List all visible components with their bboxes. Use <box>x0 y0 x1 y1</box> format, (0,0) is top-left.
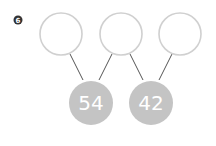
connectors <box>70 54 172 80</box>
bottom-row: 54 42 <box>69 81 173 125</box>
step-badge: 6 <box>14 16 23 25</box>
top-row <box>40 13 201 55</box>
connector-line <box>70 54 83 80</box>
sum-node-1-value: 54 <box>78 91 103 115</box>
connector-line <box>99 54 112 80</box>
empty-node-2[interactable] <box>100 13 142 55</box>
badge-label: 6 <box>16 17 21 25</box>
number-pyramid-diagram: 6 54 42 <box>0 0 216 146</box>
empty-node-3[interactable] <box>159 13 201 55</box>
sum-node-2-value: 42 <box>138 91 163 115</box>
connector-line <box>130 54 143 80</box>
empty-node-1[interactable] <box>40 13 82 55</box>
connector-line <box>159 54 172 80</box>
